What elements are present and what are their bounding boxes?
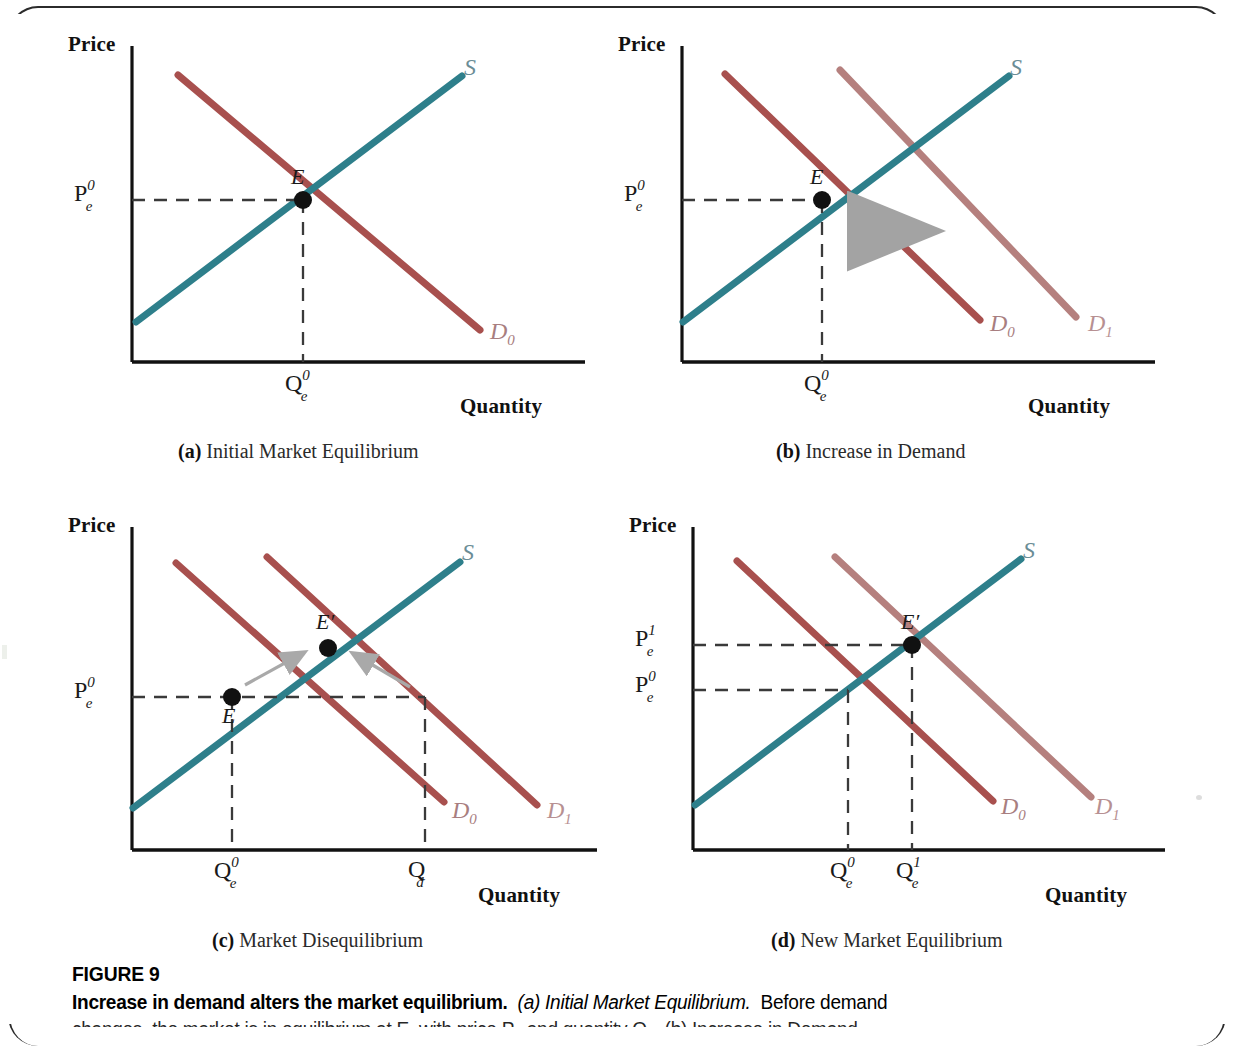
- figure-caption-bold: Increase in demand alters the market equ…: [72, 990, 508, 1013]
- quantity-tick-qe1: Q1e: [896, 857, 928, 887]
- price-tick-pe0: P0e: [624, 180, 652, 210]
- price-axis-label: Price: [68, 513, 116, 538]
- panel-b-caption-text: Increase in Demand: [805, 440, 965, 462]
- quantity-axis-label: Quantity: [1028, 394, 1110, 419]
- scan-artifact-left: [2, 645, 7, 659]
- supply-curve-label: S: [1010, 54, 1022, 81]
- price-tick-pe0: P0e: [74, 180, 102, 210]
- quantity-axis-label: Quantity: [478, 883, 560, 908]
- demand0-curve-label: D0: [452, 797, 477, 828]
- figure-caption-cut-line: changes, the market is in equilibrium at…: [72, 1017, 1114, 1027]
- figure-caption-italic: (a) Initial Market Equilibrium.: [518, 990, 751, 1013]
- panel-a-caption-text: Initial Market Equilibrium: [206, 440, 418, 462]
- supply-curve-label: S: [464, 54, 476, 81]
- supply-curve-label: S: [462, 539, 474, 566]
- quantity-tick-qe0: Q0e: [830, 857, 862, 887]
- panel-c-caption-text: Market Disequilibrium: [239, 929, 423, 951]
- panel-c-caption: (c) Market Disequilibrium: [212, 929, 423, 952]
- panel-b-tag: (b): [776, 440, 800, 462]
- quantity-tick-qe0: Q0e: [214, 857, 246, 887]
- quantity-axis-label: Quantity: [460, 394, 542, 419]
- point-label-e-prime: E′: [316, 609, 334, 635]
- panel-d-caption-text: New Market Equilibrium: [800, 929, 1002, 951]
- demand1-curve-label: D1: [1088, 310, 1113, 341]
- price-axis-label: Price: [629, 513, 677, 538]
- demand0-curve-label: D0: [490, 318, 515, 349]
- price-axis-label: Price: [618, 32, 666, 57]
- demand1-curve-label: D1: [1095, 793, 1120, 824]
- quantity-axis-label: Quantity: [1045, 883, 1127, 908]
- figure-caption-rest: Before demand: [761, 990, 888, 1013]
- panel-b-caption: (b) Increase in Demand: [776, 440, 965, 463]
- demand-curve-d0: [178, 75, 480, 330]
- panel-c-tag: (c): [212, 929, 234, 951]
- point-label-e: E: [291, 164, 304, 190]
- point-label-e-prime: E′: [901, 609, 919, 635]
- price-tick-pe0: P0e: [635, 671, 663, 701]
- demand-curve-d1: [840, 70, 1076, 317]
- price-tick-pe1: P1e: [635, 625, 663, 655]
- demand1-curve-label: D1: [547, 797, 572, 828]
- price-axis-label: Price: [68, 32, 116, 57]
- panel-a-caption: (a) Initial Market Equilibrium: [178, 440, 419, 463]
- demand0-curve-label: D0: [1001, 793, 1026, 824]
- demand0-curve-label: D0: [990, 310, 1015, 341]
- panel-b-plot: [610, 22, 1210, 482]
- panel-a: Price Quantity S D0 E P0e Q0e (a) Initia…: [60, 22, 620, 482]
- figure-caption-block: FIGURE 9 Increase in demand alters the m…: [72, 962, 1192, 1027]
- quantity-tick-qe0: Q0e: [285, 370, 317, 400]
- figure-number: FIGURE 9: [72, 962, 1102, 986]
- equilibrium-point-e: [294, 191, 312, 209]
- equilibrium-point-e-prime: [319, 639, 337, 657]
- figure-caption-line: Increase in demand alters the market equ…: [72, 990, 1114, 1014]
- panel-a-tag: (a): [178, 440, 201, 462]
- equilibrium-point-e: [813, 191, 831, 209]
- point-label-e: E: [222, 703, 235, 729]
- demand-curve-d1: [835, 557, 1091, 797]
- equilibrium-point-e-prime: [903, 636, 921, 654]
- panel-b: Price Quantity S D0 D1 E P0e Q0e (b) Inc…: [610, 22, 1210, 482]
- quantity-tick-qd: Qd: [408, 857, 433, 886]
- panel-d: Price Quantity S D0 D1 E′ P1e P0e Q0e Q1…: [625, 505, 1225, 965]
- panel-d-caption: (d) New Market Equilibrium: [771, 929, 1003, 952]
- price-tick-pe0: P0e: [74, 677, 102, 707]
- supply-curve-label: S: [1023, 537, 1035, 564]
- panel-d-plot: [625, 505, 1225, 965]
- point-label-e: E: [810, 164, 823, 190]
- quantity-tick-qe0: Q0e: [804, 370, 836, 400]
- panel-c-plot: [60, 505, 660, 965]
- panel-c: Price Quantity S D0 D1 E E′ P0e Q0e Qd (…: [60, 505, 660, 965]
- panel-d-tag: (d): [771, 929, 795, 951]
